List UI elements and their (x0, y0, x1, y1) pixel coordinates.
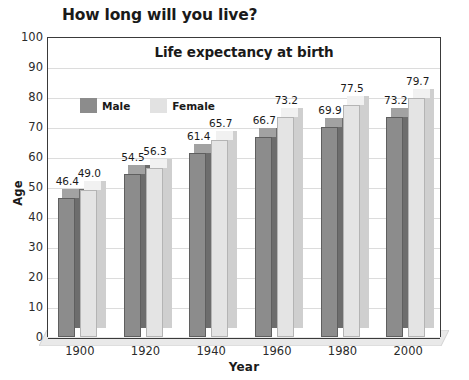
bar-female-1940 (211, 140, 228, 337)
y-tick-label: 30 (3, 240, 43, 254)
bar-male-2000 (386, 117, 403, 337)
bar-front-face (277, 117, 294, 337)
bar-value-label: 73.2 (271, 94, 302, 106)
bar-side-face (228, 131, 237, 328)
x-tick-label: 1940 (197, 344, 226, 358)
bar-front-face (124, 174, 141, 338)
bars-layer: 46.449.054.556.361.465.766.773.269.977.5… (47, 37, 441, 337)
bar-value-label: 56.3 (140, 145, 171, 157)
bar-female-1900 (80, 190, 97, 337)
bar-front-face (80, 190, 97, 337)
bar-male-1920 (124, 174, 141, 338)
y-tick-label: 80 (3, 90, 43, 104)
bar-side-face (294, 108, 303, 328)
y-tick-label: 60 (3, 150, 43, 164)
bar-front-face (58, 198, 75, 337)
bar-male-1980 (321, 127, 338, 337)
bar-front-face (408, 98, 425, 337)
bar-side-face (163, 159, 172, 328)
life-expectancy-bar-chart: 0102030405060708090100 Age Life expectan… (0, 0, 469, 380)
y-tick-label: 10 (3, 300, 43, 314)
bar-top-face (325, 118, 342, 127)
y-tick-label: 100 (3, 30, 43, 44)
bar-female-1920 (146, 168, 163, 337)
gridline (48, 338, 440, 339)
bar-female-1960 (277, 117, 294, 337)
bar-top-face (391, 108, 408, 117)
bar-front-face (255, 137, 272, 337)
y-tick-label: 0 (3, 330, 43, 344)
bar-value-label: 61.4 (183, 130, 214, 142)
bar-top-face (150, 159, 167, 168)
y-tick-label: 20 (3, 270, 43, 284)
x-tick-label: 1960 (262, 344, 291, 358)
bar-side-face (97, 181, 106, 328)
bar-top-face (413, 89, 430, 98)
y-axis-title: Age (11, 163, 25, 223)
bar-value-label: 65.7 (205, 117, 236, 129)
bar-side-face (425, 89, 434, 328)
bar-value-label: 73.2 (380, 94, 411, 106)
x-axis-title: Year (47, 360, 441, 374)
x-tick-label: 1920 (131, 344, 160, 358)
bar-top-face (194, 144, 211, 153)
bar-front-face (386, 117, 403, 337)
bar-male-1940 (189, 153, 206, 337)
x-tick-label: 2000 (394, 344, 423, 358)
bar-top-face (259, 128, 276, 137)
bar-front-face (321, 127, 338, 337)
bar-top-face (62, 189, 79, 198)
bar-front-face (146, 168, 163, 337)
bar-top-face (128, 165, 145, 174)
x-tick-label: 1980 (328, 344, 357, 358)
bar-female-1980 (343, 105, 360, 338)
bar-front-face (343, 105, 360, 338)
bar-top-face (216, 131, 233, 140)
y-tick-label: 90 (3, 60, 43, 74)
bar-value-label: 49.0 (74, 167, 105, 179)
bar-value-label: 79.7 (402, 75, 433, 87)
bar-value-label: 66.7 (249, 114, 280, 126)
y-tick-label: 70 (3, 120, 43, 134)
bar-top-face (281, 108, 298, 117)
bar-male-1900 (58, 198, 75, 337)
bar-front-face (211, 140, 228, 337)
bar-side-face (360, 96, 369, 329)
bar-male-1960 (255, 137, 272, 337)
bar-value-label: 77.5 (337, 82, 368, 94)
bar-top-face (347, 96, 364, 105)
x-tick-label: 1900 (65, 344, 94, 358)
bar-top-face (84, 181, 101, 190)
bar-front-face (189, 153, 206, 337)
bar-female-2000 (408, 98, 425, 337)
bar-value-label: 69.9 (315, 104, 346, 116)
